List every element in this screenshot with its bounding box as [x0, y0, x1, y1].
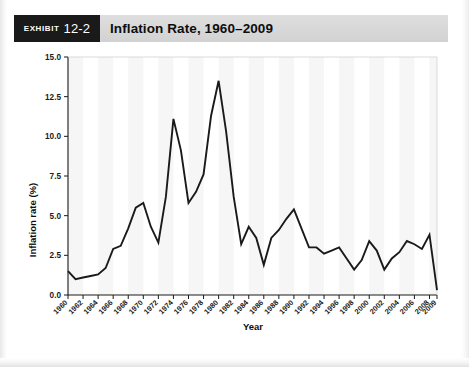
x-tick-label: 1992: [292, 298, 310, 316]
background-band: [309, 57, 324, 295]
x-tick-label: 1988: [262, 298, 280, 316]
background-band: [188, 57, 203, 295]
x-tick-label: 1980: [202, 298, 220, 316]
background-band: [279, 57, 294, 295]
x-tick-label: 1966: [97, 298, 115, 316]
x-tick-label: 1964: [82, 297, 101, 316]
y-tick-label: 15.0: [45, 53, 61, 62]
y-axis-ticks: [64, 57, 68, 295]
x-tick-label: 2000: [353, 298, 371, 316]
x-tick-label: 2002: [368, 298, 386, 316]
y-axis-title: Inflation rate (%): [27, 183, 38, 257]
background-band: [369, 57, 384, 295]
x-tick-label: 1960: [51, 298, 69, 316]
background-bands: [68, 57, 437, 295]
x-tick-label: 1972: [142, 298, 160, 316]
x-axis-title: Year: [243, 321, 263, 332]
x-tick-label: 1962: [66, 298, 84, 316]
page-title: Inflation Rate, 1960–2009: [110, 15, 273, 42]
x-tick-label: 1986: [247, 298, 265, 316]
y-tick-label: 10.0: [45, 132, 61, 141]
y-tick-label: 0.0: [50, 291, 62, 300]
x-tick-label: 1998: [338, 298, 356, 316]
x-tick-label: 1970: [127, 298, 145, 316]
x-tick-label: 2006: [398, 298, 416, 316]
x-tick-label: 1978: [187, 298, 205, 316]
x-tick-label: 1976: [172, 298, 190, 316]
x-tick-label: 1982: [217, 298, 235, 316]
y-tick-label: 5.0: [50, 212, 62, 221]
exhibit-header: Exhibit 12-2 Inflation Rate, 1960–2009: [14, 15, 448, 42]
background-band: [68, 57, 83, 295]
x-tick-label: 1990: [277, 298, 295, 316]
inflation-line-chart: 0.02.55.07.510.012.515.0 196019621964196…: [0, 44, 469, 364]
x-tick-label: 1996: [323, 298, 341, 316]
exhibit-number: 12-2: [63, 21, 90, 36]
y-tick-label: 12.5: [45, 93, 61, 102]
x-tick-label: 2004: [383, 297, 402, 316]
background-band: [399, 57, 414, 295]
x-axis-tick-labels: 1960196219641966196819701972197419761978…: [51, 297, 438, 316]
exhibit-label: Exhibit: [24, 24, 60, 33]
exhibit-badge: Exhibit 12-2: [14, 15, 100, 42]
background-band: [98, 57, 113, 295]
y-tick-label: 2.5: [50, 251, 62, 260]
x-tick-label: 1994: [307, 297, 326, 316]
y-tick-label: 7.5: [50, 172, 62, 181]
chart-container: 0.02.55.07.510.012.515.0 196019621964196…: [0, 44, 469, 364]
x-tick-label: 1968: [112, 298, 130, 316]
x-tick-label: 1984: [232, 297, 251, 316]
x-tick-label: 1974: [157, 297, 176, 316]
background-band: [128, 57, 143, 295]
y-axis-tick-labels: 0.02.55.07.510.012.515.0: [45, 53, 61, 300]
background-band: [158, 57, 173, 295]
